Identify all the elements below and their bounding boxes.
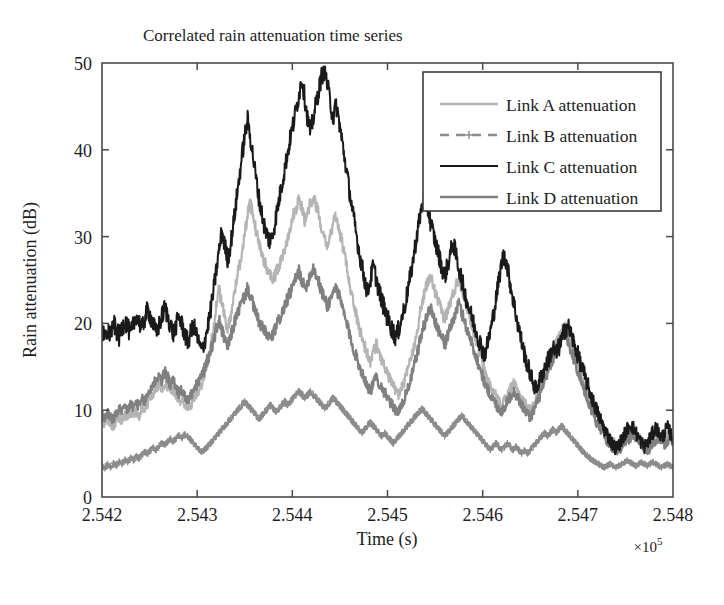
x-tick-label: 2.548 [653,505,694,525]
chart-figure: Correlated rain attenuation time series … [0,0,724,605]
legend-label: Link A attenuation [506,95,637,115]
legend-label: Link D attenuation [506,188,638,208]
y-tick-label: 10 [74,401,92,421]
x-axis-label: Time (s) [357,529,418,550]
y-tick-label: 40 [74,141,92,161]
y-tick-label: 20 [74,314,92,334]
legend-label: Link C attenuation [506,157,637,177]
x-tick-label: 2.542 [82,505,123,525]
legend[interactable]: Link A attenuationLink B attenuationLink… [423,72,661,211]
x-tick-label: 2.547 [558,505,599,525]
x-tick-label: 2.545 [367,505,408,525]
legend-label: Link B attenuation [506,126,637,146]
x-tick-label: 2.543 [177,505,218,525]
x-tick-label: 2.544 [272,505,313,525]
x-axis-multiplier-exponent: 5 [657,535,663,547]
chart-title: Correlated rain attenuation time series [143,26,403,45]
y-tick-label: 30 [74,228,92,248]
y-axis-label: Rain attenuation (dB) [20,202,41,358]
rain-attenuation-line-chart: Correlated rain attenuation time series … [0,0,724,605]
y-tick-label: 0 [83,488,92,508]
x-tick-label: 2.546 [462,505,503,525]
y-tick-label: 50 [74,54,92,74]
x-axis-multiplier-base: ×10 [634,539,657,555]
